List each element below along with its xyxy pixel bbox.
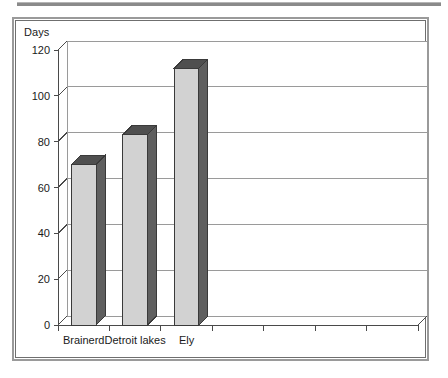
bar-chart-plot [0, 0, 448, 378]
y-axis-tick-label: 0 [16, 319, 50, 331]
y-axis-tick-label: 60 [16, 182, 50, 194]
y-axis-tick-label: 80 [16, 136, 50, 148]
y-axis-tick-label: 40 [16, 227, 50, 239]
x-axis-tick-label: Ely [137, 334, 237, 346]
y-axis-tick-label: 100 [16, 90, 50, 102]
chart-page: Days 020406080100120 BrainerdDetroit lak… [0, 0, 448, 378]
y-axis-tick-label: 20 [16, 273, 50, 285]
y-axis-tick-label: 120 [16, 44, 50, 56]
